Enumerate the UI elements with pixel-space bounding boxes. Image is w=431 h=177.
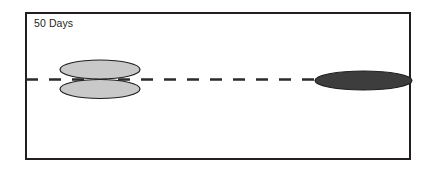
figure-root: 50 Days <box>0 0 431 177</box>
scene-svg <box>0 0 431 177</box>
lower-light-ellipse <box>60 80 140 99</box>
dark-ellipse <box>315 71 412 90</box>
upper-light-ellipse <box>60 60 140 79</box>
